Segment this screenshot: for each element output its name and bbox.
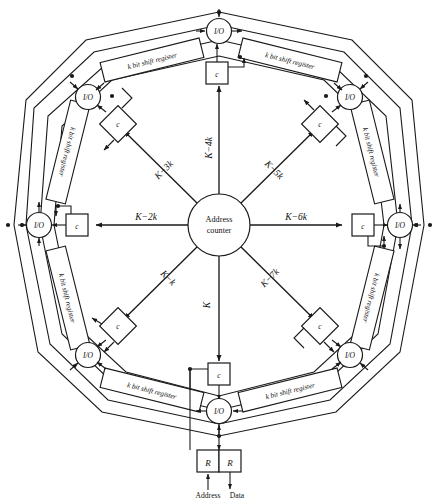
spoke-line-down-left <box>124 246 198 319</box>
io-node-label: I/O <box>82 93 94 102</box>
control-box-left[interactable]: c <box>52 206 88 236</box>
address-counter-label-line1: Address <box>206 215 233 224</box>
address-counter-label-line2: counter <box>207 226 232 235</box>
radial-memory-architecture-diagram: k bit shift register k bit shift registe… <box>0 0 439 501</box>
spoke-label-down-left: K−k <box>158 268 178 288</box>
control-box-bottom-right[interactable]: c <box>294 308 338 352</box>
shift-register-block[interactable]: k bit shift register <box>46 246 90 350</box>
address-counter-hub[interactable]: Address counter <box>188 194 250 256</box>
shift-register-block[interactable]: k bit shift register <box>350 246 394 350</box>
shift-register-block[interactable]: k bit shift register <box>100 368 204 412</box>
data-output-label: Data <box>230 491 245 500</box>
shift-register-block[interactable]: k bit shift register <box>350 100 394 204</box>
io-node-label: I/O <box>213 27 225 36</box>
io-node-top[interactable]: I/O <box>196 9 242 44</box>
register-label: R <box>226 458 233 468</box>
shift-register-block[interactable]: k bit shift register <box>238 368 342 412</box>
shift-register-block[interactable]: k bit shift register <box>100 38 204 82</box>
address-input-label: Address <box>196 491 221 500</box>
io-node-label: I/O <box>82 351 94 360</box>
spoke-line-down-right <box>240 246 314 319</box>
shift-register-block[interactable]: k bit shift register <box>238 38 342 82</box>
diagram-canvas: k bit shift register k bit shift registe… <box>0 0 439 501</box>
spoke-label-down-right: K−7k <box>258 266 282 290</box>
control-box-top[interactable]: c <box>206 44 244 84</box>
control-box-top-left[interactable]: c <box>100 88 137 150</box>
spoke-label-right: K−6k <box>284 212 307 222</box>
io-node-label: I/O <box>213 407 225 416</box>
spoke-label-left: K−2k <box>134 212 157 222</box>
bottom-register-group: R R Address Data <box>190 369 245 500</box>
shift-register-block[interactable]: k bit shift register <box>46 100 90 204</box>
spoke-label-up: K−4k <box>204 136 214 159</box>
io-node-label: I/O <box>344 351 356 360</box>
io-node-label: I/O <box>394 221 406 230</box>
io-node-label: I/O <box>344 93 356 102</box>
spoke-label-down: K <box>202 301 212 309</box>
register-box-address[interactable]: R <box>197 450 219 472</box>
io-node-label: I/O <box>33 221 45 230</box>
register-label: R <box>204 458 211 468</box>
register-box-data[interactable]: R <box>219 450 241 472</box>
